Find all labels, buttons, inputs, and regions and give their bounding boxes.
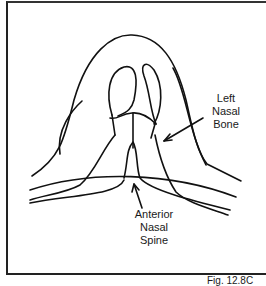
- anterior-nasal-spine-label: Anterior Nasal Spine: [124, 208, 184, 247]
- label-line: Spine: [124, 234, 184, 247]
- lower-left-line: [30, 180, 124, 203]
- left-nasal-bone-label: Left Nasal Bone: [204, 92, 248, 131]
- label-line: Nasal: [204, 105, 248, 118]
- label-line: Bone: [204, 118, 248, 131]
- label-line: Anterior: [124, 208, 184, 221]
- right-nasal-bone-line: [155, 135, 228, 215]
- label-line: Nasal: [124, 221, 184, 234]
- left-nostril-outline: [109, 67, 136, 116]
- label-line: Left: [204, 92, 248, 105]
- figure-caption: Fig. 12.8C: [207, 276, 253, 286]
- left-nasal-bone-arrow: [164, 118, 203, 141]
- right-flank-line: [173, 68, 206, 165]
- left-flank-line: [59, 101, 82, 154]
